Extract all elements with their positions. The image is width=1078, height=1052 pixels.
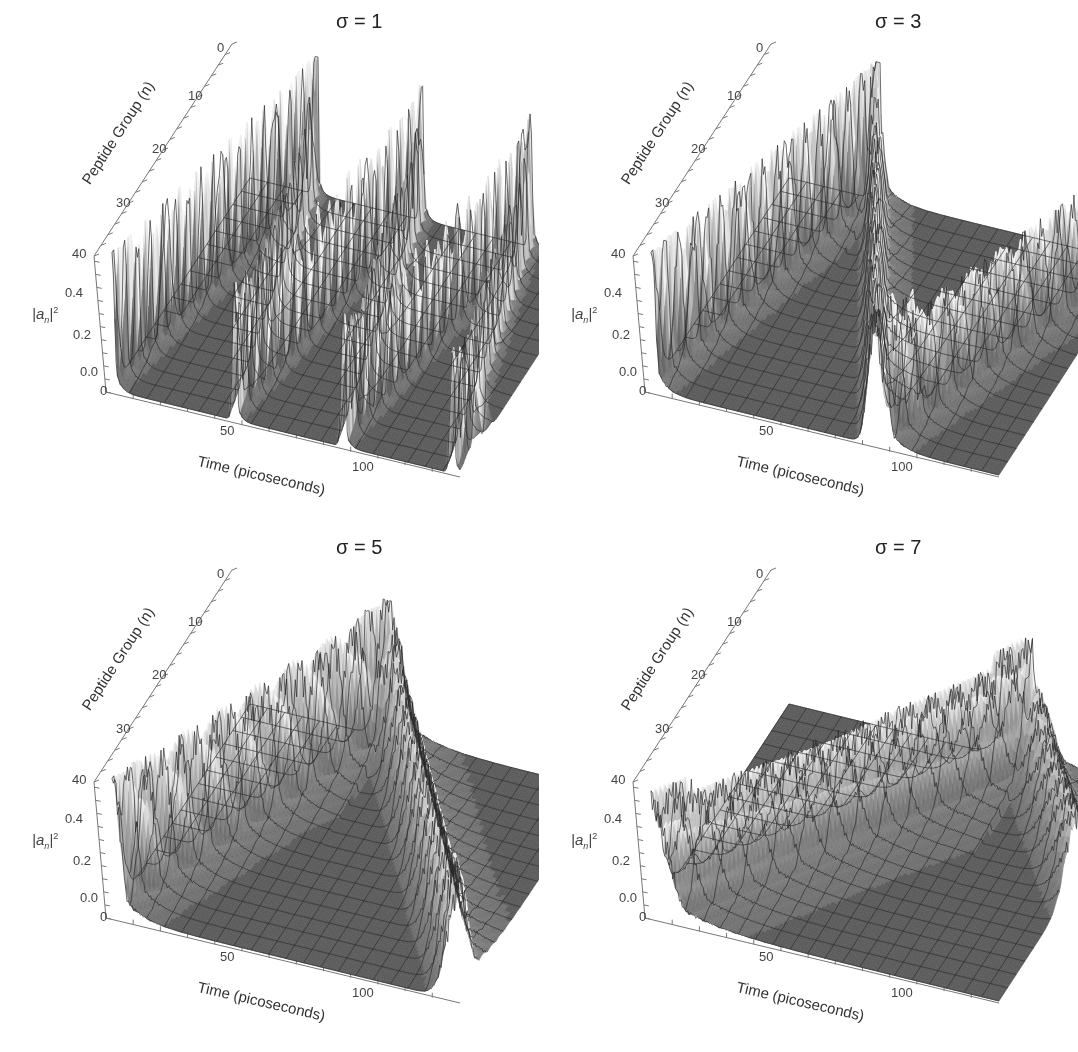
x-tick-0: 0 [639, 909, 646, 924]
y-tick-40: 40 [72, 246, 86, 261]
surface-canvas [0, 526, 539, 1052]
y-tick-30: 30 [655, 721, 669, 736]
z-tick-0.4: 0.4 [65, 285, 83, 300]
surface-plot-panel-sigma-1: σ = 1 Peptide Group (n) 0 10 20 30 40 0.… [0, 0, 539, 526]
y-tick-40: 40 [611, 246, 625, 261]
z-tick-0.0: 0.0 [619, 890, 637, 905]
x-tick-100: 100 [891, 985, 913, 1000]
z-axis-title: |an|2 [571, 305, 597, 325]
panel-title: σ = 7 [875, 536, 921, 559]
z-tick-0.2: 0.2 [612, 853, 630, 868]
z-tick-0.4: 0.4 [604, 285, 622, 300]
surface-canvas [0, 0, 539, 526]
y-tick-0: 0 [217, 566, 224, 581]
x-tick-100: 100 [352, 459, 374, 474]
y-tick-0: 0 [756, 566, 763, 581]
y-tick-20: 20 [691, 141, 705, 156]
surface-canvas [539, 0, 1078, 526]
z-tick-0.0: 0.0 [619, 364, 637, 379]
panel-title: σ = 3 [875, 10, 921, 33]
y-tick-30: 30 [655, 195, 669, 210]
x-tick-0: 0 [100, 909, 107, 924]
y-tick-30: 30 [116, 721, 130, 736]
x-tick-0: 0 [639, 383, 646, 398]
x-tick-50: 50 [759, 423, 773, 438]
z-tick-0.0: 0.0 [80, 890, 98, 905]
y-tick-20: 20 [152, 667, 166, 682]
y-tick-10: 10 [727, 614, 741, 629]
y-tick-40: 40 [611, 772, 625, 787]
x-tick-0: 0 [100, 383, 107, 398]
z-axis-title: |an|2 [571, 831, 597, 851]
x-tick-50: 50 [220, 949, 234, 964]
z-axis-title: |an|2 [32, 831, 58, 851]
y-tick-0: 0 [217, 40, 224, 55]
z-axis-title: |an|2 [32, 305, 58, 325]
y-tick-30: 30 [116, 195, 130, 210]
surface-canvas [539, 526, 1078, 1052]
x-tick-100: 100 [352, 985, 374, 1000]
surface-plot-panel-sigma-7: σ = 7 Peptide Group (n) 0 10 20 30 40 0.… [539, 526, 1078, 1052]
x-tick-50: 50 [220, 423, 234, 438]
y-tick-10: 10 [188, 614, 202, 629]
y-tick-20: 20 [152, 141, 166, 156]
z-tick-0.2: 0.2 [73, 327, 91, 342]
x-tick-50: 50 [759, 949, 773, 964]
y-tick-40: 40 [72, 772, 86, 787]
surface-plot-panel-sigma-5: σ = 5 Peptide Group (n) 0 10 20 30 40 0.… [0, 526, 539, 1052]
y-tick-10: 10 [188, 88, 202, 103]
z-tick-0.4: 0.4 [604, 811, 622, 826]
z-tick-0.2: 0.2 [73, 853, 91, 868]
panel-title: σ = 5 [336, 536, 382, 559]
x-tick-100: 100 [891, 459, 913, 474]
z-tick-0.2: 0.2 [612, 327, 630, 342]
y-tick-10: 10 [727, 88, 741, 103]
y-tick-20: 20 [691, 667, 705, 682]
surface-plot-panel-sigma-3: σ = 3 Peptide Group (n) 0 10 20 30 40 0.… [539, 0, 1078, 526]
y-tick-0: 0 [756, 40, 763, 55]
z-tick-0.0: 0.0 [80, 364, 98, 379]
panel-title: σ = 1 [336, 10, 382, 33]
z-tick-0.4: 0.4 [65, 811, 83, 826]
